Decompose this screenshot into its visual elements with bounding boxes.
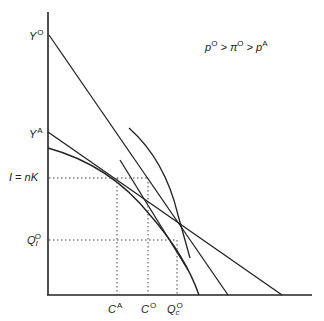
label-Y-A: YA xyxy=(29,127,43,140)
price-inequality: pO > πO > pA xyxy=(205,39,268,53)
budget-line-YO xyxy=(49,35,228,295)
label-Q1-O: QIO xyxy=(27,233,41,248)
label-I-nK: I = nK xyxy=(9,172,38,183)
indifference-curve-upper xyxy=(129,128,190,258)
label-C-A: CA xyxy=(108,302,122,315)
diagram-canvas xyxy=(0,0,324,321)
label-C-O: CO xyxy=(141,302,156,315)
label-Y-O: YO xyxy=(29,29,44,42)
budget-line-YA xyxy=(48,132,282,295)
label-Qc-O: QcO xyxy=(167,302,183,317)
